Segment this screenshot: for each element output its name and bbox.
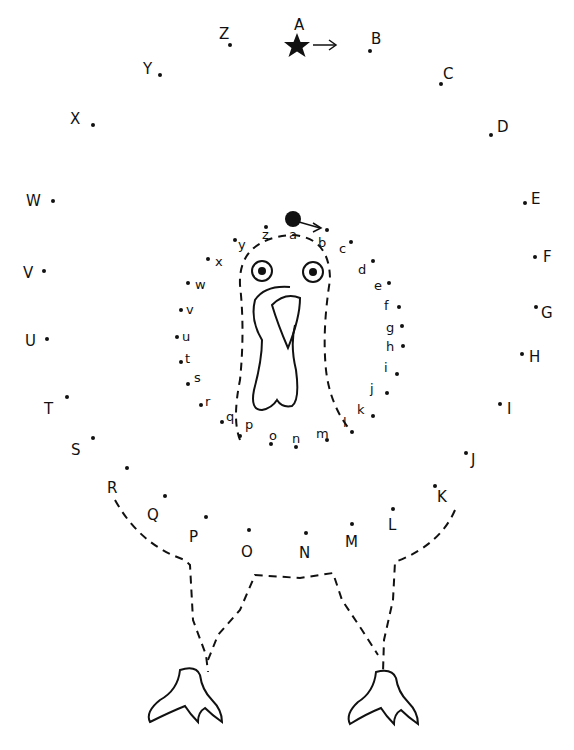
outer-dot-B[interactable] bbox=[368, 49, 372, 53]
outer-dot-Q[interactable] bbox=[163, 494, 167, 498]
outer-dot-O[interactable] bbox=[247, 528, 251, 532]
inner-label: m bbox=[316, 427, 329, 440]
outer-label: Z bbox=[219, 27, 229, 42]
outer-label: D bbox=[497, 120, 509, 135]
outer-label: A bbox=[294, 18, 304, 33]
outer-dot-U[interactable] bbox=[45, 337, 49, 341]
outer-label: G bbox=[541, 306, 553, 321]
inner-label: w bbox=[195, 278, 206, 291]
inner-dot-a[interactable] bbox=[292, 217, 296, 221]
outer-label: B bbox=[371, 32, 381, 47]
inner-dot-e[interactable] bbox=[387, 281, 391, 285]
start-arrow-icon bbox=[313, 40, 336, 50]
outer-dot-A[interactable] bbox=[295, 45, 299, 49]
inner-dot-s[interactable] bbox=[186, 382, 190, 386]
outer-label: H bbox=[529, 350, 540, 365]
inner-label: d bbox=[358, 263, 366, 276]
inner-label: u bbox=[182, 330, 190, 343]
inner-dot-l[interactable] bbox=[350, 430, 354, 434]
inner-label: q bbox=[226, 410, 234, 423]
inner-label: n bbox=[292, 432, 300, 445]
inner-dot-b[interactable] bbox=[325, 228, 329, 232]
outer-dot-I[interactable] bbox=[498, 402, 502, 406]
outer-label: W bbox=[26, 194, 41, 209]
inner-label: f bbox=[384, 299, 389, 312]
outer-dot-Y[interactable] bbox=[158, 73, 162, 77]
outer-label: F bbox=[543, 250, 552, 265]
outer-dot-G[interactable] bbox=[534, 305, 538, 309]
outer-label: C bbox=[443, 67, 453, 82]
left-eye-icon bbox=[252, 261, 272, 281]
outer-dot-R[interactable] bbox=[125, 466, 129, 470]
center-body-line bbox=[208, 573, 378, 660]
inner-label: t bbox=[185, 352, 190, 365]
outer-dot-T[interactable] bbox=[65, 395, 69, 399]
outer-label: L bbox=[388, 518, 396, 533]
outer-label: P bbox=[189, 530, 198, 545]
inner-dot-y[interactable] bbox=[233, 238, 237, 242]
outer-dot-P[interactable] bbox=[204, 515, 208, 519]
outer-label: K bbox=[437, 490, 447, 505]
inner-label: j bbox=[370, 382, 374, 395]
inner-dot-t[interactable] bbox=[179, 360, 183, 364]
inner-dot-r[interactable] bbox=[199, 403, 203, 407]
inner-label: l bbox=[343, 416, 347, 429]
inner-label: s bbox=[194, 371, 201, 384]
outer-dot-V[interactable] bbox=[42, 269, 46, 273]
right-body-line bbox=[383, 510, 455, 672]
outer-label: Y bbox=[143, 62, 152, 77]
inner-label: g bbox=[386, 321, 394, 334]
outer-label: N bbox=[299, 546, 310, 561]
right-eye-icon bbox=[303, 262, 323, 282]
inner-label: a bbox=[289, 228, 297, 241]
inner-dot-w[interactable] bbox=[186, 281, 190, 285]
inner-label: k bbox=[357, 403, 365, 416]
inner-label: h bbox=[386, 340, 394, 353]
inner-start-arrow-icon bbox=[299, 222, 321, 232]
inner-label: i bbox=[384, 361, 388, 374]
outer-dot-M[interactable] bbox=[350, 522, 354, 526]
inner-dot-q[interactable] bbox=[220, 420, 224, 424]
inner-dot-k[interactable] bbox=[371, 414, 375, 418]
inner-label: r bbox=[205, 395, 210, 408]
inner-dot-v[interactable] bbox=[179, 308, 183, 312]
inner-dot-u[interactable] bbox=[175, 335, 179, 339]
outer-dot-L[interactable] bbox=[391, 507, 395, 511]
outer-label: R bbox=[107, 481, 117, 496]
outer-dot-Z[interactable] bbox=[228, 43, 232, 47]
outer-dot-F[interactable] bbox=[533, 255, 537, 259]
outer-label: S bbox=[71, 443, 81, 458]
outer-dot-H[interactable] bbox=[520, 352, 524, 356]
left-foot-icon bbox=[149, 668, 222, 722]
outer-dot-J[interactable] bbox=[464, 451, 468, 455]
outer-label: X bbox=[70, 112, 80, 127]
outer-label: T bbox=[44, 402, 53, 417]
inner-dot-d[interactable] bbox=[371, 259, 375, 263]
inner-label: e bbox=[374, 279, 382, 292]
turkey-drawing bbox=[0, 0, 574, 750]
inner-label: b bbox=[318, 236, 326, 249]
outer-dot-E[interactable] bbox=[523, 201, 527, 205]
outer-label: J bbox=[471, 453, 475, 468]
outer-label: O bbox=[241, 545, 253, 560]
inner-label: c bbox=[339, 242, 346, 255]
inner-dot-j[interactable] bbox=[385, 391, 389, 395]
outer-label: E bbox=[531, 192, 540, 207]
inner-dot-x[interactable] bbox=[206, 257, 210, 261]
wattle-outline bbox=[253, 287, 297, 410]
inner-dot-g[interactable] bbox=[400, 324, 404, 328]
inner-dot-i[interactable] bbox=[395, 372, 399, 376]
inner-dot-c[interactable] bbox=[349, 240, 353, 244]
outer-label: M bbox=[345, 535, 358, 550]
inner-dot-p[interactable] bbox=[238, 434, 242, 438]
inner-dot-h[interactable] bbox=[401, 344, 405, 348]
outer-dot-W[interactable] bbox=[51, 199, 55, 203]
outer-dot-N[interactable] bbox=[304, 531, 308, 535]
inner-dot-f[interactable] bbox=[397, 305, 401, 309]
outer-dot-D[interactable] bbox=[489, 133, 493, 137]
outer-label: U bbox=[25, 334, 36, 349]
inner-label: o bbox=[269, 429, 277, 442]
outer-dot-S[interactable] bbox=[91, 436, 95, 440]
outer-label: I bbox=[507, 402, 511, 417]
outer-dot-X[interactable] bbox=[91, 123, 95, 127]
